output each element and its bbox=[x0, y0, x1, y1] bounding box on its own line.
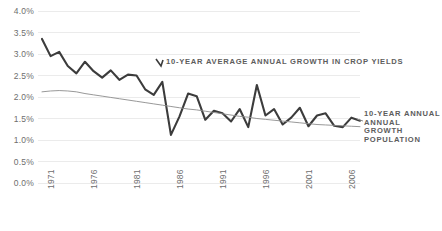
y-axis-tick-label: 2.5% bbox=[0, 71, 34, 81]
y-axis-tick-label: 0.5% bbox=[0, 157, 34, 167]
y-axis-tick-label: 1.0% bbox=[0, 135, 34, 145]
annotation-leader-lines bbox=[156, 59, 363, 121]
x-axis-tick-label: 2001 bbox=[304, 169, 314, 189]
x-axis-tick-label: 1971 bbox=[46, 169, 56, 189]
x-axis-tick-label: 1996 bbox=[261, 169, 271, 189]
gridlines bbox=[38, 11, 360, 183]
annotation-population-line4: POPULATION bbox=[364, 135, 421, 144]
x-axis-tick-label: 1981 bbox=[132, 169, 142, 189]
y-axis-tick-label: 3.5% bbox=[0, 28, 34, 38]
y-axis-tick-label: 1.5% bbox=[0, 114, 34, 124]
x-axis-tick-label: 1991 bbox=[218, 169, 228, 189]
y-axis-tick-label: 4.0% bbox=[0, 6, 34, 16]
series-lines bbox=[42, 39, 360, 135]
x-axis-tick-label: 1986 bbox=[175, 169, 185, 189]
annotation-crop-yields: 10-YEAR AVERAGE ANNUAL GROWTH IN CROP YI… bbox=[166, 58, 403, 67]
y-axis-tick-label: 3.0% bbox=[0, 49, 34, 59]
annotation-population: 10-YEAR ANNUAL ANNUAL GROWTH POPULATION bbox=[364, 110, 442, 144]
y-axis-tick-label: 0.0% bbox=[0, 178, 34, 188]
x-axis-tick-label: 2006 bbox=[347, 169, 357, 189]
chart-container: 0.0%0.5%1.0%1.5%2.0%2.5%3.0%3.5%4.0% 197… bbox=[0, 0, 442, 231]
x-axis-tick-label: 1976 bbox=[89, 169, 99, 189]
y-axis-tick-label: 2.0% bbox=[0, 92, 34, 102]
